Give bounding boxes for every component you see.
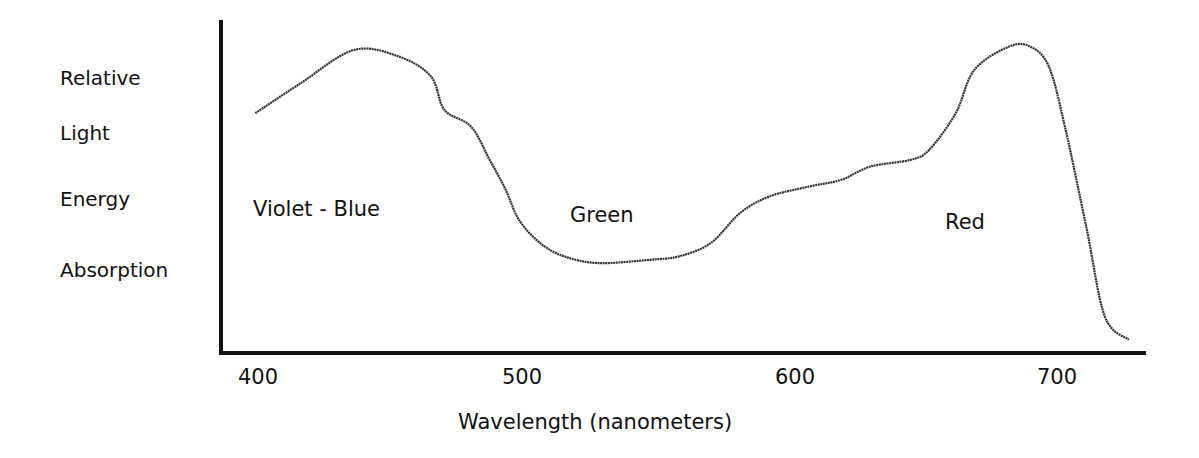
x-tick-400: 400 [238,365,278,389]
region-label-green: Green [570,203,634,227]
absorption-curve [255,44,1129,340]
region-label-violet-blue: Violet - Blue [253,197,380,221]
region-label-red: Red [945,210,985,234]
x-tick-500: 500 [502,365,542,389]
plot-area [0,0,1199,458]
x-tick-600: 600 [775,365,815,389]
x-tick-700: 700 [1037,365,1077,389]
x-axis-title: Wavelength (nanometers) [458,410,732,434]
